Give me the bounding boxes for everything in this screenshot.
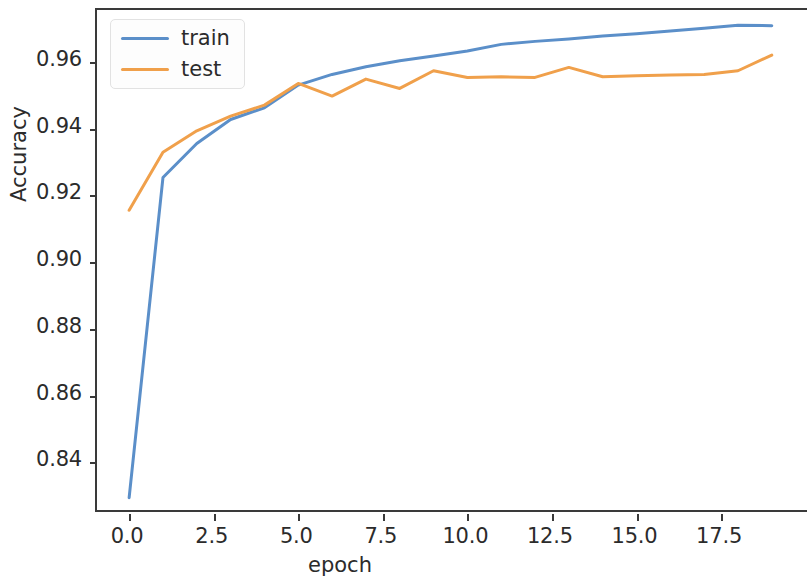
x-tick-mark bbox=[721, 514, 723, 521]
y-tick-mark bbox=[90, 329, 97, 331]
legend: train test bbox=[110, 19, 245, 89]
y-tick-label: 0.96 bbox=[36, 47, 82, 71]
legend-item-train: train bbox=[121, 28, 230, 49]
x-tick-label: 17.5 bbox=[669, 524, 769, 548]
x-tick-mark bbox=[298, 514, 300, 521]
x-tick-mark bbox=[467, 514, 469, 521]
y-tick-label: 0.86 bbox=[36, 381, 82, 405]
legend-swatch-train bbox=[121, 37, 169, 40]
legend-swatch-test bbox=[121, 68, 169, 71]
y-tick-label: 0.92 bbox=[36, 180, 82, 204]
y-tick-label: 0.90 bbox=[36, 247, 82, 271]
y-axis-label: Accuracy bbox=[7, 172, 31, 202]
y-tick-mark bbox=[90, 62, 97, 64]
x-tick-mark bbox=[129, 514, 131, 521]
y-tick-label: 0.94 bbox=[36, 114, 82, 138]
x-tick-mark bbox=[552, 514, 554, 521]
x-tick-mark bbox=[637, 514, 639, 521]
y-tick-mark bbox=[90, 462, 97, 464]
y-tick-mark bbox=[90, 195, 97, 197]
line-series-train bbox=[129, 25, 772, 497]
x-tick-mark bbox=[383, 514, 385, 521]
y-tick-label: 0.84 bbox=[36, 447, 82, 471]
y-tick-mark bbox=[90, 262, 97, 264]
y-tick-label: 0.88 bbox=[36, 314, 82, 338]
legend-item-test: test bbox=[121, 59, 230, 80]
legend-label-train: train bbox=[181, 28, 230, 49]
legend-label-test: test bbox=[181, 59, 221, 80]
plot-axes: train test bbox=[95, 8, 807, 512]
x-tick-mark bbox=[214, 514, 216, 521]
y-tick-mark bbox=[90, 396, 97, 398]
x-axis-label: epoch bbox=[0, 553, 680, 577]
y-tick-mark bbox=[90, 129, 97, 131]
